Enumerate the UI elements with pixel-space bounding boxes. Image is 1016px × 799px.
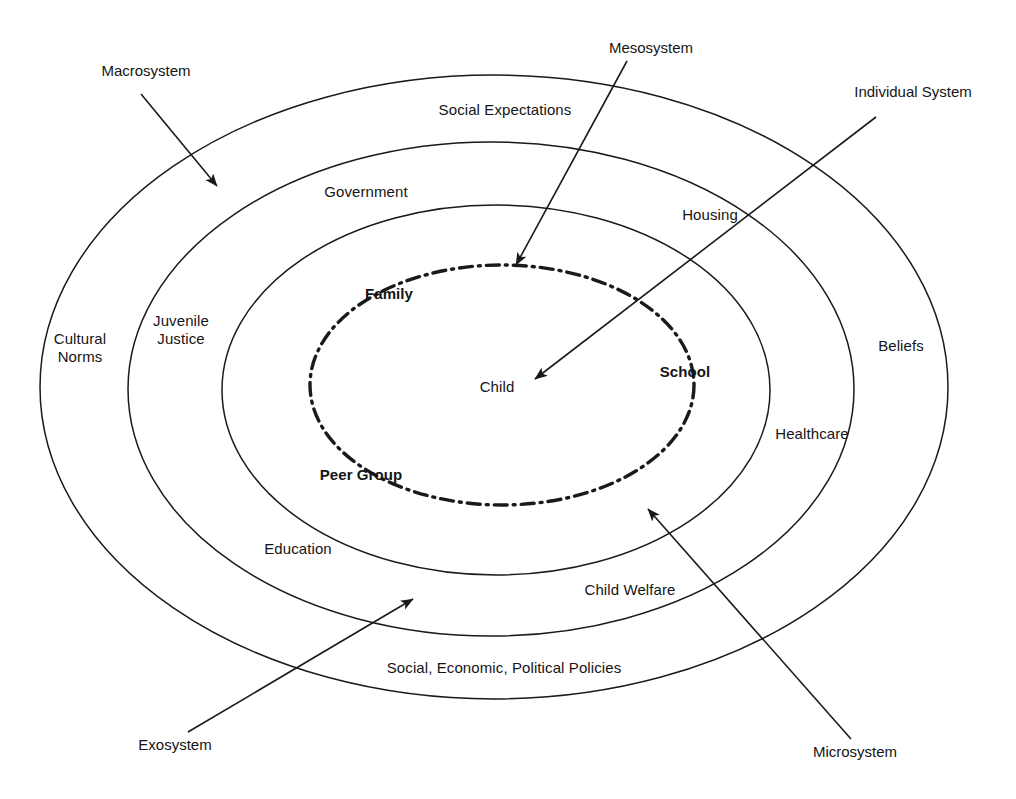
- label-peer-group: Peer Group: [320, 466, 403, 484]
- label-education: Education: [264, 540, 332, 558]
- callout-label-microsystem: Microsystem: [813, 743, 897, 761]
- arrow-mesosystem: [516, 61, 627, 265]
- label-policies: Social, Economic, Political Policies: [387, 659, 622, 677]
- label-child: Child: [480, 378, 515, 396]
- label-healthcare: Healthcare: [775, 425, 849, 443]
- arrow-exosystem: [188, 599, 413, 732]
- ecological-systems-svg: [0, 0, 1016, 799]
- callout-label-exosystem: Exosystem: [138, 736, 211, 754]
- label-beliefs: Beliefs: [878, 337, 924, 355]
- label-government: Government: [324, 183, 408, 201]
- arrow-macrosystem: [141, 94, 217, 186]
- callout-label-mesosystem: Mesosystem: [609, 39, 693, 57]
- label-juvenile-justice: Juvenile Justice: [153, 312, 209, 347]
- diagram-canvas: Social ExpectationsGovernmentHousingCult…: [0, 0, 1016, 799]
- label-housing: Housing: [682, 206, 738, 224]
- label-family: Family: [365, 285, 413, 303]
- callout-label-individual-system: Individual System: [854, 83, 972, 101]
- arrow-microsystem: [648, 509, 851, 739]
- label-cultural-norms: Cultural Norms: [54, 330, 107, 365]
- callout-label-macrosystem: Macrosystem: [101, 62, 190, 80]
- label-social-expectations: Social Expectations: [439, 101, 572, 119]
- label-school: School: [660, 363, 711, 381]
- arrow-individual-system: [535, 117, 876, 379]
- label-child-welfare: Child Welfare: [584, 581, 675, 599]
